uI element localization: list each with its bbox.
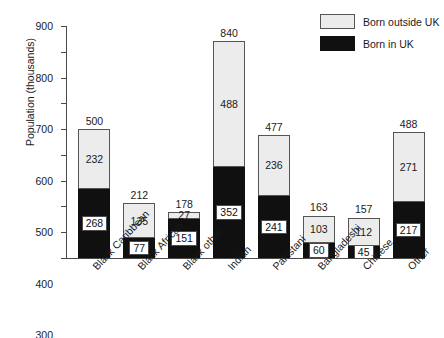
y-tick: 400 bbox=[61, 155, 66, 156]
y-tick-label: 800 bbox=[13, 72, 53, 84]
bar-segment-value-born-outside-uk: 488 bbox=[220, 99, 238, 110]
chart-legend: Born outside UK Born in UK bbox=[320, 14, 439, 58]
bar-segment-value-born-outside-uk: 236 bbox=[265, 160, 283, 171]
y-tick: 0 bbox=[61, 258, 66, 259]
legend-label-born-outside-uk: Born outside UK bbox=[363, 16, 439, 28]
bar-segment-born-outside-uk: 103 bbox=[303, 216, 335, 243]
y-tick-label: 600 bbox=[13, 175, 53, 187]
bar-segment-born-in-uk: 352 bbox=[213, 167, 245, 258]
y-tick-label: 400 bbox=[13, 278, 53, 290]
y-tick: 600 bbox=[61, 103, 66, 104]
y-tick: 700 bbox=[61, 78, 66, 79]
population-stacked-bar-chart: Population (thousands) 01002003004005006… bbox=[0, 0, 444, 338]
bar-segment-born-outside-uk: 27 bbox=[168, 212, 200, 219]
bar-segment-born-outside-uk: 232 bbox=[78, 129, 110, 189]
bar-total-value: 157 bbox=[334, 204, 394, 215]
bar-segment-value-born-outside-uk: 27 bbox=[178, 210, 190, 221]
bar-other: 217271488 bbox=[393, 132, 425, 258]
bar-segment-value-born-outside-uk: 103 bbox=[310, 224, 328, 235]
bar-indian: 352488840 bbox=[213, 41, 245, 258]
legend-swatch-born-outside-uk bbox=[320, 14, 355, 29]
legend-label-born-in-uk: Born in UK bbox=[363, 38, 414, 50]
y-axis-line bbox=[66, 26, 67, 258]
bar-total-value: 178 bbox=[154, 199, 214, 210]
bar-segment-value-born-in-uk: 352 bbox=[216, 205, 242, 220]
bar-segment-value-born-in-uk: 217 bbox=[396, 223, 422, 238]
bar-total-value: 488 bbox=[379, 119, 439, 130]
bar-black-caribbean: 268232500 bbox=[78, 129, 110, 258]
y-tick-label: 500 bbox=[13, 226, 53, 238]
legend-swatch-born-in-uk bbox=[320, 36, 355, 51]
y-tick-label: 900 bbox=[13, 20, 53, 32]
bar-pakistani: 241236477 bbox=[258, 135, 290, 258]
y-tick: 100 bbox=[61, 232, 66, 233]
bar-total-value: 500 bbox=[64, 116, 124, 127]
bar-segment-born-outside-uk: 488 bbox=[213, 41, 245, 167]
bar-segment-born-outside-uk: 271 bbox=[393, 132, 425, 202]
bar-segment-value-born-outside-uk: 271 bbox=[400, 162, 418, 173]
plot-area: 0100200300400500600700800900 26823250077… bbox=[66, 26, 425, 258]
y-tick-label: 700 bbox=[13, 123, 53, 135]
y-tick: 500 bbox=[61, 129, 66, 130]
legend-item-born-outside-uk: Born outside UK bbox=[320, 14, 439, 29]
y-tick: 800 bbox=[61, 52, 66, 53]
bar-total-value: 840 bbox=[199, 28, 259, 39]
legend-item-born-in-uk: Born in UK bbox=[320, 36, 439, 51]
y-tick: 900 bbox=[61, 26, 66, 27]
bar-segment-value-born-in-uk: 241 bbox=[261, 220, 287, 235]
bar-segment-value-born-in-uk: 268 bbox=[82, 216, 108, 231]
y-tick: 300 bbox=[61, 181, 66, 182]
bar-segment-born-outside-uk: 236 bbox=[258, 135, 290, 196]
y-tick: 200 bbox=[61, 206, 66, 207]
bar-segment-value-born-outside-uk: 232 bbox=[86, 154, 104, 165]
y-tick-label: 300 bbox=[13, 329, 53, 338]
bar-total-value: 477 bbox=[244, 122, 304, 133]
